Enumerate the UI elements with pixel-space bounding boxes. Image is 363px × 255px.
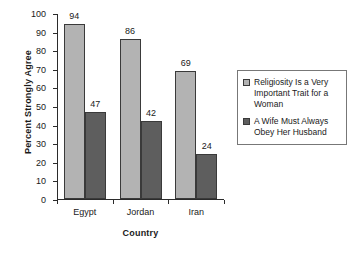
y-tick-label: 90 — [36, 28, 46, 38]
y-tick-label: 0 — [41, 195, 46, 205]
bar-egypt-series1 — [85, 112, 106, 199]
legend-item-obedience: A Wife Must Always Obey Her Husband — [243, 116, 341, 138]
y-tick-label: 100 — [31, 9, 46, 19]
legend-label-religiosity: Religiosity Is a Very Important Trait fo… — [254, 77, 341, 110]
x-tick — [224, 200, 225, 204]
bar-value-label: 86 — [125, 26, 135, 36]
chart-legend: Religiosity Is a Very Important Trait fo… — [237, 70, 347, 145]
y-tick-label: 30 — [36, 139, 46, 149]
category-label-egypt: Egypt — [73, 207, 96, 217]
y-axis-line — [57, 14, 58, 200]
legend-swatch-dark-icon — [243, 118, 250, 125]
bar-jordan-series0 — [120, 39, 141, 199]
y-tick-label: 70 — [36, 65, 46, 75]
legend-swatch-light-icon — [243, 79, 250, 86]
y-tick-label: 80 — [36, 46, 46, 56]
y-axis-title: Percent Strongly Agree — [23, 27, 33, 177]
legend-label-obedience: A Wife Must Always Obey Her Husband — [254, 116, 341, 138]
category-label-iran: Iran — [188, 207, 204, 217]
y-tick-label: 40 — [36, 121, 46, 131]
bar-chart: Percent Strongly Agree 01020304050607080… — [0, 0, 363, 255]
x-axis-title: Country — [57, 228, 224, 238]
x-tick — [113, 200, 114, 204]
bar-jordan-series1 — [141, 121, 162, 199]
y-tick-label: 50 — [36, 102, 46, 112]
y-tick-label: 10 — [36, 176, 46, 186]
bar-iran-series0 — [175, 71, 196, 199]
bar-value-label: 47 — [90, 99, 100, 109]
bar-value-label: 94 — [69, 11, 79, 21]
y-tick-label: 60 — [36, 83, 46, 93]
legend-item-religiosity: Religiosity Is a Very Important Trait fo… — [243, 77, 341, 110]
plot-area: 0102030405060708090100 944786426924 — [57, 14, 224, 200]
bar-value-label: 69 — [181, 58, 191, 68]
bar-egypt-series0 — [64, 24, 85, 199]
x-tick — [168, 200, 169, 204]
bar-value-label: 24 — [202, 141, 212, 151]
x-axis-line — [57, 199, 224, 200]
category-label-jordan: Jordan — [127, 207, 155, 217]
bar-value-label: 42 — [146, 108, 156, 118]
bar-iran-series1 — [196, 154, 217, 199]
x-tick — [57, 200, 58, 204]
y-tick-label: 20 — [36, 158, 46, 168]
